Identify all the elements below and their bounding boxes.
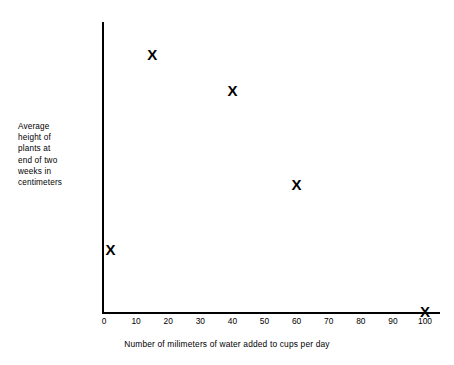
data-point-marker: X [224, 83, 240, 99]
scatter-chart: Average height of plants at end of two w… [0, 0, 454, 365]
data-point-marker: X [144, 47, 160, 63]
data-point-marker: X [102, 242, 118, 258]
data-point-marker: X [417, 304, 433, 320]
data-point-marker: X [289, 177, 305, 193]
data-point-layer: XXXXX [0, 0, 454, 365]
x-axis-title: Number of milimeters of water added to c… [0, 339, 454, 349]
